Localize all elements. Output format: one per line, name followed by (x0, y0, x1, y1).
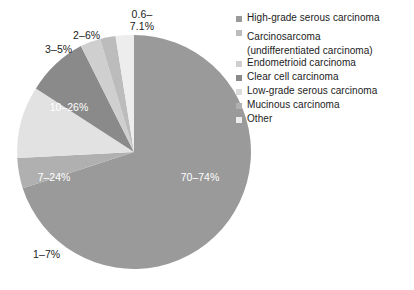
pie-svg: 70–74% 10–26% 7–24% (14, 19, 254, 271)
callout-label-carcinosarcoma: 2–6% (73, 30, 100, 42)
legend-label: Clear cell carcinoma (247, 71, 339, 83)
callout-label-other-line1: 0.6– (132, 8, 153, 20)
pie-slices (17, 35, 251, 269)
legend-label: High-grade serous carcinoma (247, 12, 380, 24)
legend-label: Low-grade serous carcinoma (247, 85, 377, 97)
legend-swatch-icon (236, 103, 242, 109)
legend-item-low-grade-serous-carcinoma[interactable]: Low-grade serous carcinoma (236, 85, 412, 98)
slice-label-low-grade-serous: 7–24% (38, 171, 71, 183)
pie-chart-figure: 70–74% 10–26% 7–24% 1–7% 3–5% 2–6% 0.6– … (0, 0, 414, 290)
legend-item-endometrioid-carcinoma[interactable]: Endometrioid carcinoma (236, 57, 412, 70)
pie-chart-area: 70–74% 10–26% 7–24% (14, 19, 254, 271)
slice-label-high-grade-serous: 70–74% (181, 171, 220, 183)
callout-label-mucinous: 1–7% (33, 249, 60, 261)
legend-swatch-icon (236, 16, 242, 22)
callout-label-other: 0.6– 7.1% (122, 9, 162, 32)
legend-label: Carcinosarcoma (247, 31, 321, 42)
callout-label-endometrioid: 3–5% (45, 44, 72, 56)
legend-label: Other (247, 113, 272, 125)
legend-swatch-icon (236, 89, 242, 95)
legend-label: Endometrioid carcinoma (247, 57, 356, 69)
callout-label-other-line2: 7.1% (130, 20, 154, 32)
legend: High-grade serous carcinoma Carcinosarco… (236, 12, 412, 127)
legend-item-high-grade-serous-carcinoma[interactable]: High-grade serous carcinoma (236, 12, 412, 25)
legend-item-mucinous-carcinoma[interactable]: Mucinous carcinoma (236, 99, 412, 112)
legend-sublabel-carcinosarcoma: (undifferentiated carcinoma) (236, 45, 412, 57)
legend-swatch-icon (236, 117, 242, 123)
legend-label: Mucinous carcinoma (247, 99, 340, 111)
legend-item-other[interactable]: Other (236, 113, 412, 126)
slice-label-clear-cell: 10–26% (50, 101, 89, 113)
legend-swatch-icon (236, 75, 242, 81)
legend-item-clear-cell-carcinoma[interactable]: Clear cell carcinoma (236, 71, 412, 84)
legend-swatch-icon (236, 61, 242, 67)
legend-swatch-icon (236, 30, 242, 36)
legend-item-carcinosarcoma[interactable]: Carcinosarcoma (236, 26, 412, 44)
